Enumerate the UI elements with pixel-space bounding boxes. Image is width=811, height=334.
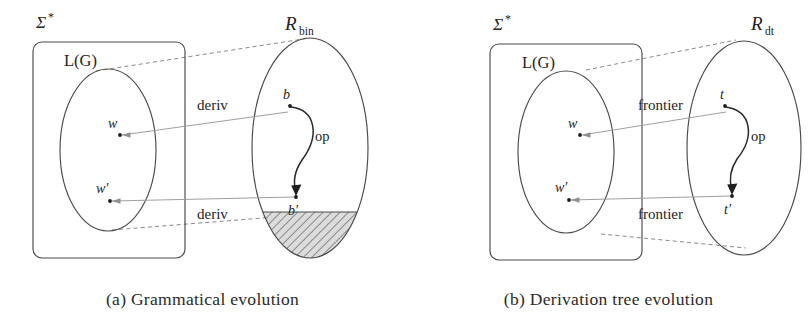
- search-space-label: R: [284, 13, 297, 34]
- mapping-label-top: frontier: [638, 97, 683, 113]
- operator-label: op: [751, 128, 766, 144]
- universe-label: Σ: [492, 15, 503, 34]
- universe-rectangle: [33, 42, 185, 258]
- correspondence-line-bottom: [601, 234, 746, 248]
- diagram-b: Σ * L(G) R dt t t′ w w′ frontier frontie…: [406, 0, 811, 290]
- universe-rectangle: [490, 44, 642, 260]
- mapping-arrow-top: [582, 112, 726, 138]
- offspring-tree-dot: [730, 194, 734, 198]
- caption-b: (b) Derivation tree evolution: [406, 289, 811, 310]
- offspring-phenotype-label: w′: [96, 181, 109, 196]
- mapping-arrow-top: [122, 112, 288, 138]
- source-genotype-label: b: [283, 87, 290, 102]
- panel-grammatical-evolution: Σ * L(G) R bin b b′ w w′ deriv deriv op …: [0, 0, 405, 334]
- operator-arrow: [726, 107, 748, 195]
- universe-superscript: *: [48, 10, 54, 24]
- language-ellipse: [518, 71, 614, 233]
- offspring-genotype-label: b′: [288, 203, 299, 218]
- source-phenotype-label: w: [568, 116, 578, 131]
- diagram-a: Σ * L(G) R bin b b′ w w′ deriv deriv op: [0, 0, 405, 290]
- language-label: L(G): [522, 53, 555, 72]
- panel-derivation-tree-evolution: Σ * L(G) R dt t t′ w w′ frontier frontie…: [406, 0, 811, 334]
- offspring-genotype-dot: [294, 195, 298, 199]
- correspondence-line-top: [96, 38, 310, 71]
- search-space-subscript: bin: [299, 25, 314, 37]
- source-tree-label: t: [720, 87, 725, 102]
- source-phenotype-dot: [118, 133, 122, 137]
- mapping-arrow-bottom: [112, 197, 295, 204]
- language-label: L(G): [64, 51, 97, 70]
- language-ellipse: [60, 69, 156, 231]
- mapping-label-bottom: deriv: [197, 206, 228, 222]
- operator-label: op: [315, 128, 330, 144]
- universe-superscript: *: [505, 12, 511, 26]
- operator-arrow: [291, 107, 313, 196]
- mapping-arrow-bottom: [571, 196, 731, 203]
- source-phenotype-label: w: [108, 116, 118, 131]
- source-genotype-dot: [288, 104, 292, 108]
- figure-root: Σ * L(G) R bin b b′ w w′ deriv deriv op …: [0, 0, 811, 334]
- mapping-label-top: deriv: [197, 97, 228, 113]
- offspring-phenotype-label: w′: [555, 180, 568, 195]
- caption-a: (a) Grammatical evolution: [0, 289, 405, 310]
- offspring-phenotype-dot: [567, 198, 571, 202]
- offspring-tree-label: t′: [724, 202, 732, 217]
- source-tree-dot: [723, 104, 727, 108]
- offspring-phenotype-dot: [108, 199, 112, 203]
- search-space-label: R: [750, 13, 763, 34]
- invalid-region: [248, 212, 378, 272]
- search-space-subscript: dt: [765, 25, 775, 37]
- universe-label: Σ: [35, 13, 46, 32]
- source-phenotype-dot: [578, 133, 582, 137]
- mapping-label-bottom: frontier: [638, 206, 683, 222]
